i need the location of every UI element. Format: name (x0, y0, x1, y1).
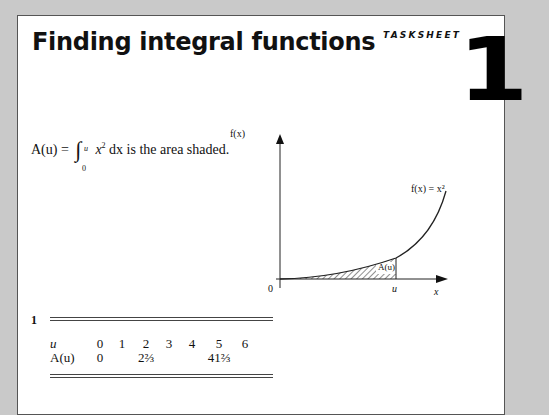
row-label-a: A(u) (50, 350, 75, 366)
a-cell: 0 (92, 350, 108, 366)
curve-label: f(x) = x² (411, 183, 445, 194)
origin-label: 0 (268, 283, 273, 294)
lower-limit: 0 (82, 164, 86, 173)
table-top-rule (50, 317, 273, 321)
question-number: 1 (31, 313, 37, 328)
intro-statement: A(u) = ∫ u 0 x2 dx is the area shaded. (31, 134, 229, 160)
table-bottom-rule (50, 374, 273, 378)
integrand-power: 2 (102, 141, 106, 150)
dx: dx (109, 142, 123, 157)
graph-svg (258, 128, 458, 298)
table-row-a: A(u) 0 2⅔ 41⅔ (50, 350, 273, 364)
u-label: u (392, 283, 397, 294)
upper-limit: u (84, 144, 88, 153)
tasksheet-number: 1 (458, 30, 528, 110)
intro-lhs: A(u) = (31, 142, 69, 157)
intro-rest: is the area shaded. (127, 142, 230, 157)
x-axis-label: x (434, 286, 438, 297)
a-cell: 2⅔ (136, 350, 156, 366)
page-title: Finding integral functions (32, 28, 375, 56)
area-label: A(u) (378, 262, 395, 272)
area-graph: f(x) f(x) = x² A(u) 0 u x (258, 128, 458, 302)
tasksheet-tag: TASKSHEET (383, 30, 461, 40)
table-row-u: u 0 1 2 3 4 5 6 (50, 336, 273, 350)
tasksheet-page: Finding integral functions TASKSHEET 1 A… (17, 15, 505, 415)
integral-sign-icon: ∫ (75, 137, 81, 162)
y-axis-label: f(x) (230, 128, 245, 139)
a-cell: 41⅔ (206, 350, 232, 366)
